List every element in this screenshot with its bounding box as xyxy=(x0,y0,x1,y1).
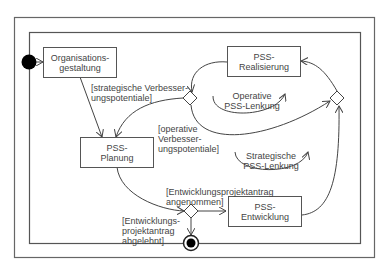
edge-realisierung-to-decision xyxy=(191,62,227,92)
guard-angenommen: [Entwicklungsprojektantrag angenommen] xyxy=(166,187,274,207)
initial-node xyxy=(22,55,37,70)
edge-merge-to-realisierung xyxy=(301,61,337,91)
guard-operative: [operative Verbesser- ungspotentiale] xyxy=(158,124,219,154)
guard-strategische: [strategische Verbesser- ungspotentiale] xyxy=(91,83,188,103)
node-organisationsgestaltung: Organisations- gestaltung xyxy=(43,47,117,78)
edge-entwicklung-to-merge xyxy=(302,106,339,215)
loop-label-operative: Operative PSS-Lenkung xyxy=(222,91,282,111)
node-pss-realisierung: PSS- Realisierung xyxy=(227,46,301,77)
node-pss-planung: PSS- Planung xyxy=(80,137,154,168)
merge-node-right xyxy=(330,91,344,105)
loop-label-strategische: Strategische PSS-Lenkung xyxy=(238,151,304,171)
guard-abgelehnt: [Entwicklungs- projektantrag abgelehnt] xyxy=(122,216,180,246)
